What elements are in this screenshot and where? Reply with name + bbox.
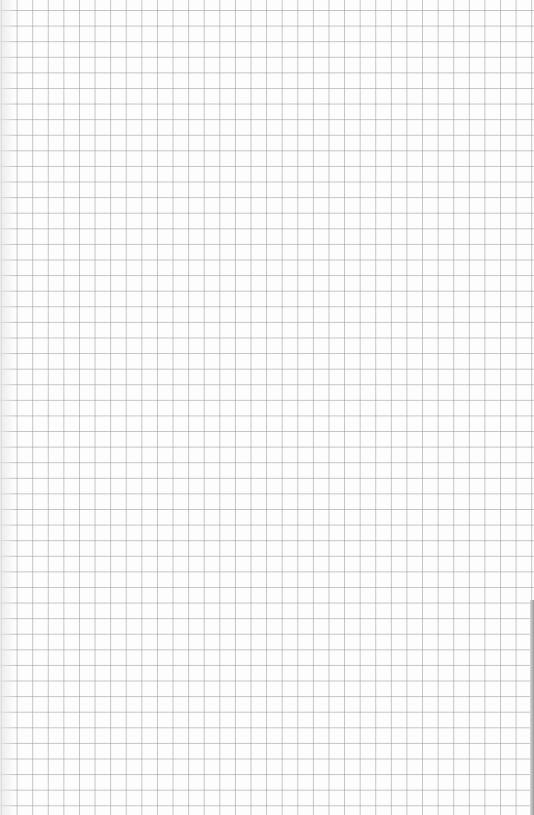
- right-edge-shadow: [530, 600, 534, 815]
- left-edge-shadow: [0, 0, 14, 815]
- graph-paper-sheet: [0, 0, 534, 815]
